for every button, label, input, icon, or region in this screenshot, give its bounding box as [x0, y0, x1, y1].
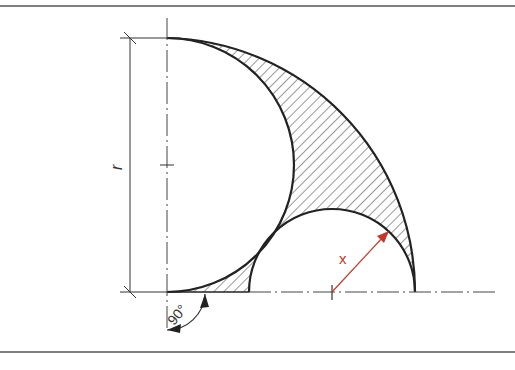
angle-label: 90°	[164, 301, 190, 328]
geometry-diagram: r x 90°	[0, 0, 515, 370]
r-label: r	[108, 164, 125, 170]
x-label: x	[339, 250, 347, 267]
angle-arrow-top-icon	[200, 294, 209, 308]
